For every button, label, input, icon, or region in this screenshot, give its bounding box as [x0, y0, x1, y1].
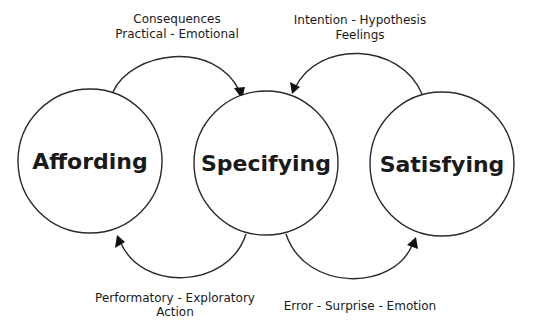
edge-label-line: Performatory - Exploratory	[95, 291, 255, 305]
node-satisfying: Satisfying	[370, 92, 514, 236]
edge-label-affording-to-specifying: Consequences Practical - Emotional	[115, 12, 238, 41]
node-affording: Affording	[18, 89, 162, 233]
edge-label-line: Action	[156, 305, 194, 319]
edge-satisfying-to-specifying	[290, 53, 422, 94]
edge-affording-to-specifying	[113, 57, 245, 99]
edge-label-line: Consequences	[133, 12, 220, 26]
arrowhead-icon	[407, 237, 418, 249]
node-specifying: Specifying	[194, 91, 338, 235]
edge-specifying-to-satisfying	[286, 234, 418, 279]
edge-label-satisfying-to-specifying: Intention - Hypothesis Feelings	[294, 13, 426, 42]
arc-specifying-to-affording	[120, 234, 246, 278]
node-label-affording: Affording	[32, 149, 148, 174]
node-label-specifying: Specifying	[201, 151, 331, 176]
arrowhead-icon	[115, 235, 125, 248]
arc-affording-to-specifying	[113, 57, 240, 92]
edge-label-line: Practical - Emotional	[115, 27, 238, 41]
edge-specifying-to-affording	[115, 234, 246, 278]
diagram-canvas: Affording Specifying Satisfying Conseque…	[0, 0, 533, 332]
arc-specifying-to-satisfying	[286, 234, 413, 279]
edge-label-specifying-to-affording: Performatory - Exploratory Action	[95, 291, 255, 319]
edge-label-specifying-to-satisfying: Error - Surprise - Emotion	[284, 299, 436, 313]
node-label-satisfying: Satisfying	[380, 152, 505, 177]
edge-label-line: Error - Surprise - Emotion	[284, 299, 436, 313]
arrowhead-icon	[290, 82, 300, 94]
edge-label-line: Intention - Hypothesis	[294, 13, 426, 27]
edge-label-line: Feelings	[335, 28, 384, 42]
arc-satisfying-to-specifying	[295, 53, 422, 94]
